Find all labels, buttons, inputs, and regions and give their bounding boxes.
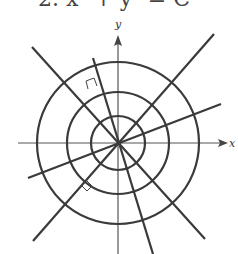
line-family <box>28 34 221 254</box>
right-angle-markers <box>81 78 97 191</box>
line-diag-downleft-upright <box>33 34 214 241</box>
line-shallow <box>28 104 221 178</box>
y-axis-label: y <box>114 18 122 31</box>
right-angle-marker-upper <box>86 78 97 89</box>
header-text: 2. x² + y² = C <box>38 0 190 11</box>
orthogonal-trajectories-figure: 2. x² + y² = C x y <box>0 0 238 254</box>
figure-canvas: 2. x² + y² = C x y <box>0 0 238 254</box>
x-axis-label: x <box>229 137 236 150</box>
